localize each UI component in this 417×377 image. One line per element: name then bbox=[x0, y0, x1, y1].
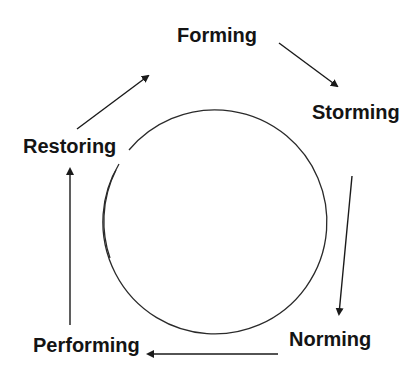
diagram-graphics bbox=[0, 0, 417, 377]
stage-label-restoring: Restoring bbox=[23, 136, 116, 156]
team-development-cycle-diagram: Forming Storming Norming Performing Rest… bbox=[0, 0, 417, 377]
stage-label-storming: Storming bbox=[312, 102, 400, 122]
stage-label-performing: Performing bbox=[33, 335, 140, 355]
arrow-forming-to-storming bbox=[279, 43, 337, 86]
arrow-storming-to-norming bbox=[339, 176, 352, 314]
central-circle-segment bbox=[104, 170, 116, 258]
central-circle bbox=[103, 110, 327, 334]
stage-label-norming: Norming bbox=[289, 329, 371, 349]
stage-label-forming: Forming bbox=[177, 25, 257, 45]
arrow-restoring-to-forming bbox=[77, 76, 148, 129]
